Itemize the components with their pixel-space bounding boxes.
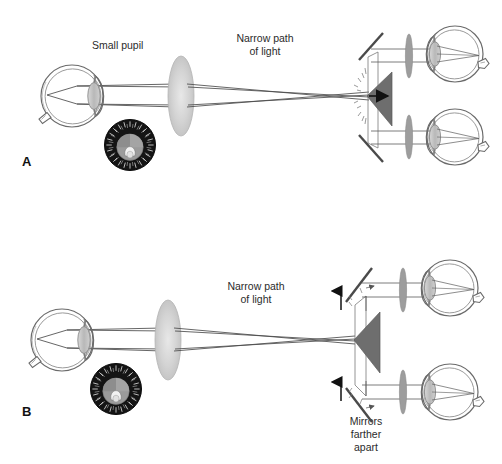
panel-a-label: A — [22, 154, 32, 169]
mirrors-label-line-1: Mirrors — [350, 415, 383, 427]
mirrors-label-line-3: apart — [354, 441, 378, 453]
optical-diagram-figure: A Small pupil Narrow path of light — [0, 0, 502, 464]
panel-a-observer-lens-lower — [405, 115, 412, 159]
panel-b-condensing-lens — [155, 300, 181, 380]
panel-a-condensing-lens — [168, 56, 194, 136]
small-pupil-label-line-1: Small pupil — [92, 39, 143, 51]
narrow-path-label-line-2: of light — [250, 45, 281, 57]
narrow-path-label-b-line-2: of light — [241, 293, 272, 305]
narrow-path-label-b-line-1: Narrow path — [227, 280, 284, 292]
panel-a-pupil-dial-inset — [105, 120, 156, 171]
narrow-path-label-line-1: Narrow path — [236, 32, 293, 44]
diagram-canvas: A Small pupil Narrow path of light — [0, 0, 502, 464]
panel-b-observer-lens-upper — [399, 268, 406, 312]
panel-b-mirrors-farther-apart-annotation: Mirrors farther apart — [350, 415, 383, 453]
panel-b-label: B — [22, 404, 31, 419]
panel-a-observer-lens-upper — [405, 34, 412, 78]
panel-b-observer-lens-lower — [399, 370, 406, 414]
panel-a-small-pupil-annotation: Small pupil — [92, 39, 143, 51]
panel-b-pupil-dial-inset — [91, 364, 142, 415]
mirrors-label-line-2: farther — [351, 428, 382, 440]
